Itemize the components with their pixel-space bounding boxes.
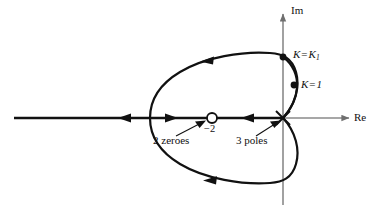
- gain-k1-subscript: 1: [316, 53, 320, 62]
- zero-value-label: −2: [204, 124, 215, 135]
- lower-loop-branch: [150, 118, 297, 185]
- poles-annotation-label: 3 poles: [236, 135, 267, 146]
- lower-loop-path: [150, 118, 297, 183]
- root-locus-plot: [0, 0, 375, 211]
- gain-unity-label: K=1: [301, 79, 322, 90]
- real-axis-arrow-left-icon: [118, 114, 131, 123]
- real-axis-label: Re: [354, 112, 366, 123]
- open-circle-icon: [207, 113, 217, 123]
- gain-k1-dot-icon: [280, 54, 287, 61]
- gain-k1-equals: =: [300, 48, 308, 60]
- real-axis-locus: [14, 114, 283, 123]
- gain-k1-value: K: [309, 48, 316, 60]
- gain-unity-value: 1: [317, 78, 323, 90]
- gain-k1-label: K=K1: [293, 49, 320, 60]
- upper-loop-branch: [150, 53, 297, 118]
- gain-unity-dot-icon: [291, 82, 298, 89]
- upper-loop-path: [150, 53, 297, 118]
- root-locus-figure: Im Re K=K1 K=1 2 zeroes 3 poles −2: [0, 0, 375, 211]
- imaginary-axis-label: Im: [291, 5, 303, 16]
- real-axis-arrow-right-icon: [165, 114, 178, 123]
- real-axis-arrow-origin-icon: [241, 114, 254, 123]
- zeros-annotation-label: 2 zeroes: [153, 135, 189, 146]
- poles-leader-arrow-icon: [270, 120, 281, 128]
- zero-marker-group: [207, 113, 217, 123]
- upper-loop-arrow-icon: [200, 56, 214, 64]
- gain-unity-equals: =: [308, 78, 316, 90]
